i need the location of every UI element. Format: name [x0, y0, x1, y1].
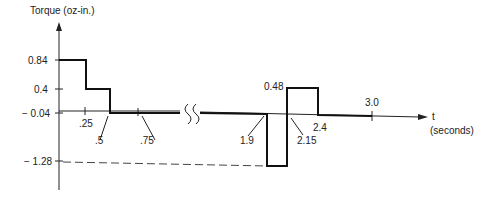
x-axis-arrow-icon	[418, 114, 428, 120]
svg-text:.75: .75	[140, 135, 154, 146]
svg-text:0.48: 0.48	[264, 81, 284, 92]
svg-text:2.4: 2.4	[313, 122, 327, 133]
svg-text:0.84: 0.84	[28, 55, 48, 66]
reference-dashed-line	[63, 162, 268, 166]
svg-text:0.4: 0.4	[34, 84, 48, 95]
torque-chart: Torque (oz-in.) 0.84 0.4 − 0.04 − 1.28 .…	[0, 0, 491, 197]
x-axis-label: t	[432, 111, 435, 122]
svg-text:.5: .5	[95, 135, 104, 146]
svg-text:1.9: 1.9	[240, 135, 254, 146]
y-axis-label: Torque (oz-in.)	[30, 5, 94, 16]
svg-text:2.15: 2.15	[297, 135, 317, 146]
svg-text:3.0: 3.0	[365, 97, 379, 108]
svg-text:− 1.28: − 1.28	[24, 156, 53, 167]
y-axis-arrow-icon	[56, 22, 62, 31]
x-axis-unit: (seconds)	[430, 125, 474, 136]
svg-text:− 0.04: − 0.04	[22, 108, 51, 119]
svg-text:.25: .25	[79, 118, 93, 129]
